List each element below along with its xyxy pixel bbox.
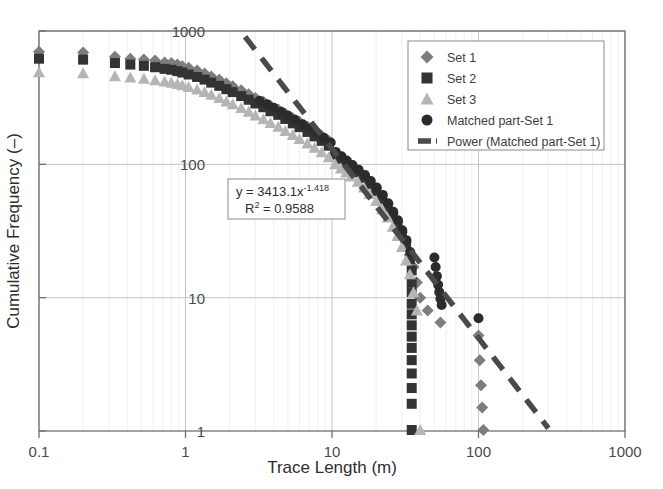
data-point [431,262,441,272]
data-point [437,300,447,310]
data-point [34,54,44,64]
y-tick-label: 10 [188,290,205,307]
data-point [407,355,417,365]
r-squared-value: = 0.9588 [259,201,314,216]
y-axis-title: Cumulative Frequency (–) [4,133,23,329]
legend-label: Power (Matched part-Set 1) [447,135,601,149]
x-tick-label: 1 [181,443,189,460]
data-point [407,343,417,353]
x-tick-label: 100 [466,443,491,460]
legend-label: Set 3 [447,93,476,107]
legend-label: Matched part-Set 1 [447,114,553,128]
y-tick-label: 1000 [172,23,205,40]
log-log-scatter-chart: 0.11101001000 1101001000 Trace Length (m… [0,0,663,489]
data-point [407,332,417,342]
x-tick-label: 1000 [608,443,641,460]
data-point [150,62,160,72]
data-point [78,55,88,65]
x-axis-title: Trace Length (m) [267,458,397,477]
equation-main: y = 3413.1x [236,184,304,199]
data-point [388,207,398,217]
legend-square-icon [422,73,433,84]
legend-circle-icon [422,115,433,126]
data-point [407,399,417,409]
data-point [407,320,417,330]
y-tick-label: 100 [180,156,205,173]
legend-label: Set 1 [447,51,476,65]
equation-annotation: y = 3413.1x-1.418 R2 = 0.9588 [228,179,345,219]
equation-exponent: -1.418 [304,183,330,193]
data-point [407,299,417,309]
data-point [125,60,135,70]
data-point [110,58,120,68]
chart-container: 0.11101001000 1101001000 Trace Length (m… [0,0,663,489]
legend: Set 1Set 2Set 3Matched part-Set 1Power (… [408,41,604,150]
y-tick-label: 1 [197,423,205,440]
legend-label: Set 2 [447,72,476,86]
data-point [393,215,403,225]
data-point [407,368,417,378]
x-tick-label: 0.1 [29,443,50,460]
data-point [407,383,417,393]
data-point [378,190,388,200]
data-point [474,313,484,323]
r-squared-label: R [245,201,254,216]
data-point [139,61,149,71]
data-point [429,253,439,263]
legend-item-set-2[interactable]: Set 2 [422,72,477,86]
data-point [383,198,393,208]
